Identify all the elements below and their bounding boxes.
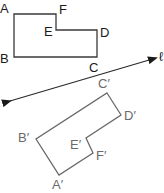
vertex-label: C bbox=[89, 61, 98, 74]
vertex-label: B bbox=[0, 52, 9, 65]
vertex-label: D′ bbox=[124, 109, 136, 122]
vertex-label: F′ bbox=[96, 149, 106, 162]
vertex-label: E′ bbox=[70, 138, 81, 151]
vertex-label: F bbox=[59, 3, 67, 16]
image-figure bbox=[36, 93, 121, 175]
original-figure bbox=[14, 14, 97, 57]
line-label: ℓ bbox=[159, 50, 163, 63]
line-of-reflection bbox=[10, 58, 156, 101]
reflection-diagram bbox=[0, 0, 164, 193]
vertex-label: B′ bbox=[18, 131, 29, 144]
vertex-label: C′ bbox=[98, 77, 110, 90]
vertex-label: A bbox=[0, 2, 9, 15]
vertex-label: E bbox=[44, 25, 53, 38]
vertex-label: D bbox=[100, 26, 109, 39]
vertex-label: A′ bbox=[52, 178, 63, 191]
